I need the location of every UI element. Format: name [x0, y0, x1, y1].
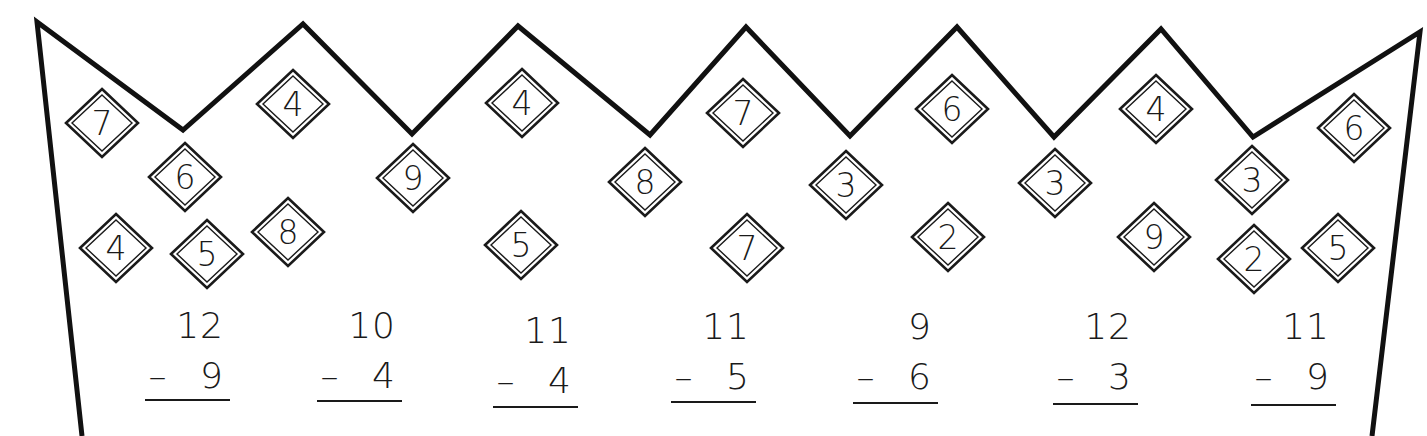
number-diamond: 9: [1118, 203, 1190, 271]
diamond-number: 3: [1242, 161, 1263, 200]
diamond-number: 6: [942, 90, 963, 129]
diamond-number: 5: [197, 235, 218, 274]
crown-worksheet: 7645849458773623493265 12–910–411–411–59…: [0, 0, 1427, 436]
minuend: 11: [1282, 306, 1330, 347]
minus-sign: –: [1255, 356, 1274, 397]
diamond-number: 7: [733, 94, 754, 133]
subtraction-problem: 12–3: [1053, 306, 1138, 404]
diamond-number: 8: [278, 213, 299, 252]
diamond-number: 6: [1344, 109, 1365, 148]
diamond-number: 5: [511, 226, 532, 265]
subtraction-problem: 10–4: [317, 305, 402, 401]
number-diamond: 5: [1302, 214, 1374, 282]
diamond-number: 4: [283, 85, 304, 124]
subtraction-problem: 11–5: [671, 306, 756, 402]
diamond-number: 4: [512, 84, 533, 123]
diamond-number: 4: [1146, 90, 1167, 129]
diamond-number: 9: [403, 159, 424, 198]
number-diamond: 6: [1318, 94, 1390, 162]
diamond-number: 8: [635, 163, 656, 202]
diamond-number: 2: [938, 218, 959, 257]
number-diamond: 3: [1216, 146, 1288, 214]
number-diamond: 5: [485, 211, 557, 279]
number-diamond: 7: [711, 214, 783, 282]
number-diamond: 2: [912, 203, 984, 271]
number-diamond: 4: [257, 70, 329, 138]
number-diamond: 5: [171, 220, 243, 288]
subtrahend: 9: [200, 355, 224, 396]
diamond-number: 3: [836, 166, 857, 205]
number-diamond: 2: [1218, 225, 1290, 293]
diamond-number: 4: [106, 229, 127, 268]
number-diamond: 3: [1019, 149, 1091, 217]
number-diamond: 8: [609, 148, 681, 216]
number-diamond: 7: [707, 79, 779, 147]
minuend: 9: [908, 306, 932, 347]
minuend: 11: [524, 310, 572, 351]
subtraction-problem: 9–6: [853, 306, 938, 403]
number-diamond: 4: [80, 214, 152, 282]
minuend: 12: [176, 305, 224, 346]
subtrahend: 9: [1306, 356, 1330, 397]
diamond-number: 2: [1244, 240, 1265, 279]
crown-drawing: 7645849458773623493265 12–910–411–411–59…: [0, 0, 1427, 436]
subtrahend: 4: [372, 355, 396, 396]
diamond-number: 3: [1045, 164, 1066, 203]
minuend: 10: [348, 305, 396, 346]
minus-sign: –: [857, 356, 876, 397]
subtraction-problem: 11–9: [1251, 306, 1336, 405]
number-diamond: 8: [252, 198, 324, 266]
diamond-number: 7: [92, 104, 113, 143]
number-diamonds: 7645849458773623493265: [66, 69, 1390, 293]
subtraction-problem: 11–4: [493, 310, 578, 407]
subtrahend: 3: [1108, 356, 1132, 397]
number-diamond: 9: [377, 144, 449, 212]
minus-sign: –: [149, 355, 168, 396]
minus-sign: –: [1057, 356, 1076, 397]
minus-sign: –: [497, 360, 516, 401]
number-diamond: 3: [810, 151, 882, 219]
minus-sign: –: [675, 356, 694, 397]
subtrahend: 5: [726, 356, 750, 397]
diamond-number: 9: [1144, 218, 1165, 257]
subtraction-problem: 12–9: [145, 305, 230, 400]
subtraction-problems: 12–910–411–411–59–612–311–9: [145, 305, 1336, 407]
number-diamond: 6: [149, 143, 221, 211]
minus-sign: –: [321, 355, 340, 396]
subtrahend: 6: [908, 356, 932, 397]
minuend: 11: [702, 306, 750, 347]
number-diamond: 7: [66, 89, 138, 157]
diamond-number: 7: [737, 229, 758, 268]
subtrahend: 4: [548, 360, 572, 401]
diamond-number: 6: [175, 158, 196, 197]
diamond-number: 5: [1328, 229, 1349, 268]
number-diamond: 4: [1120, 75, 1192, 143]
minuend: 12: [1084, 306, 1132, 347]
number-diamond: 4: [486, 69, 558, 137]
number-diamond: 6: [916, 75, 988, 143]
